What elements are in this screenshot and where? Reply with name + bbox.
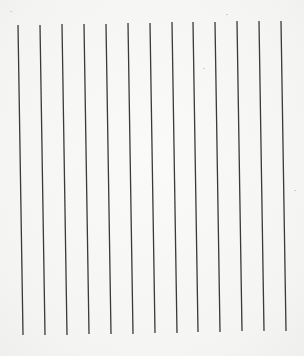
rule-line-1: [18, 25, 23, 335]
rule-line-11: [237, 21, 242, 331]
paper-speck: [10, 11, 12, 12]
rule-line-5: [106, 24, 111, 334]
rule-line-10: [215, 22, 220, 332]
scanned-ruled-page: [0, 0, 304, 356]
paper-speck: [294, 190, 296, 191]
rule-line-4: [84, 24, 89, 334]
paper-speck: [226, 14, 228, 15]
rule-line-13: [281, 21, 286, 331]
rule-line-8: [172, 22, 177, 333]
rule-line-3: [62, 24, 67, 335]
rule-line-12: [259, 21, 264, 331]
paper-speck: [203, 68, 205, 69]
rule-line-6: [128, 23, 133, 334]
rule-line-7: [150, 23, 155, 333]
rule-line-2: [40, 25, 45, 335]
vertical-rule-lines: [0, 0, 304, 356]
rule-line-9: [193, 22, 198, 332]
